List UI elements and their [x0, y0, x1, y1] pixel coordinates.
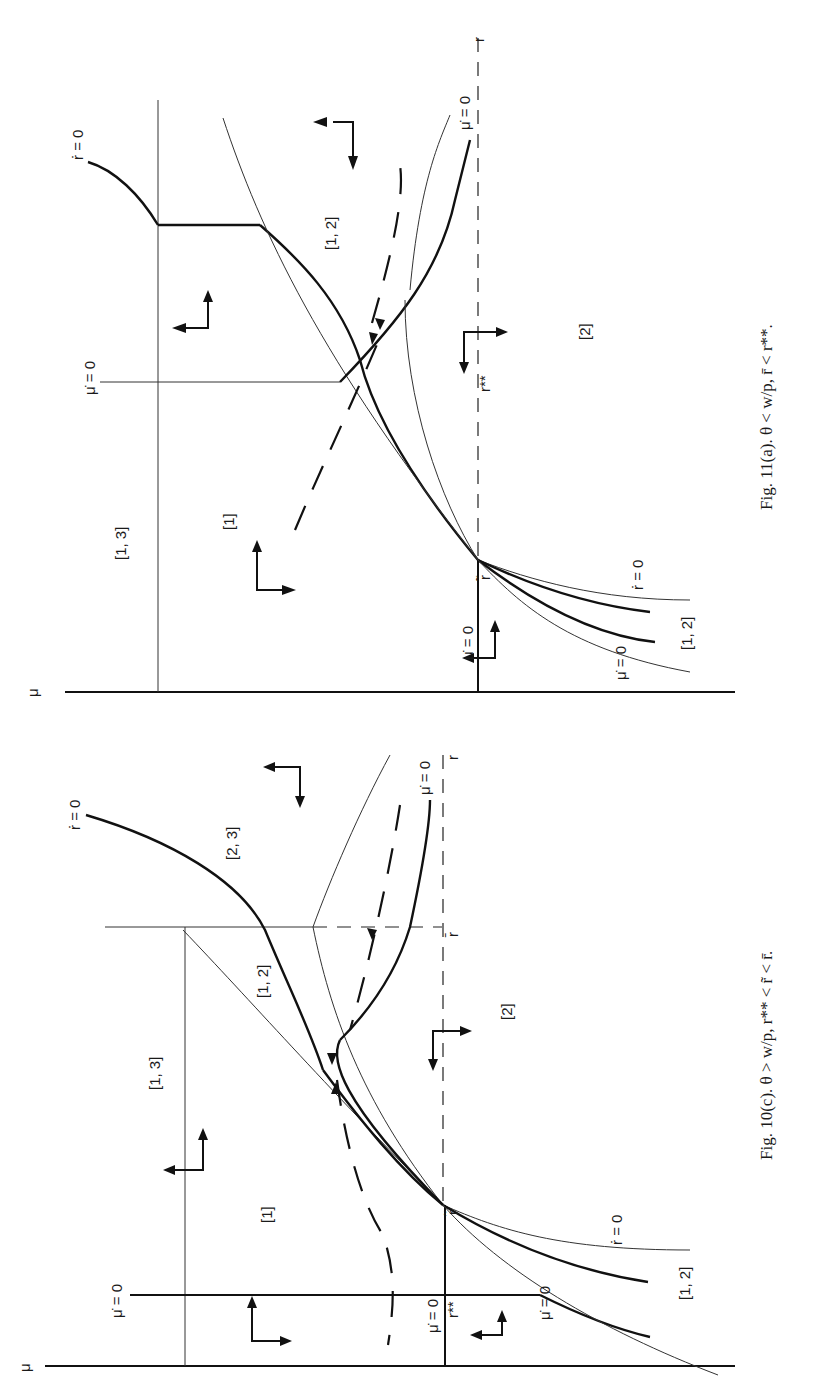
- region-2: [2]: [498, 1003, 515, 1020]
- marker-r-tilde: r̃: [444, 1210, 461, 1217]
- label-mudot-top: μ̇ = 0: [81, 361, 98, 395]
- label-mudot-right: μ̇ = 0: [456, 96, 473, 130]
- book-page: μ r: [0, 0, 816, 1395]
- direction-arrow-upper: [313, 117, 358, 170]
- saddle-arrow-up: [375, 318, 385, 330]
- direction-arrow-r-star: [459, 327, 508, 374]
- r-axis-label: r: [470, 37, 487, 42]
- figure-10c: μ r: [16, 755, 776, 1375]
- region-1: [1]: [220, 513, 237, 530]
- rdot-lower-thin: [478, 560, 690, 600]
- region-1-3: [1, 3]: [112, 527, 129, 560]
- mu-axis-label: μ: [24, 688, 41, 697]
- phase-diagrams: μ r: [0, 0, 816, 1395]
- label-rdot-top: ṙ = 0: [69, 130, 86, 160]
- direction-arrow-1: [252, 540, 296, 595]
- thin-right-curve: [410, 115, 450, 290]
- label-mudot-left: μ̇ = 0: [108, 1284, 125, 1318]
- mudot-lower-thick: [540, 1295, 650, 1337]
- saddle-path-upper: [350, 805, 400, 1030]
- thin-boundary-curve: [223, 118, 478, 560]
- direction-arrow-r-star: [428, 1026, 472, 1071]
- marker-r-double-star: r**: [444, 1301, 461, 1318]
- label-mudot-axis: μ̇ = 0: [424, 1299, 441, 1333]
- thin-inner-curve: [405, 300, 478, 560]
- caption-fig-11a: Fig. 11(a). θ < w/p, r̄ < r**.: [757, 324, 776, 510]
- region-1: [1]: [258, 1206, 275, 1223]
- region-1-3: [1, 3]: [146, 1057, 163, 1090]
- direction-arrow-upper: [263, 762, 305, 808]
- mudot-right-curve: [340, 140, 470, 382]
- saddle-arrow-r-bar: [367, 928, 377, 940]
- region-1-2-upper: [1, 2]: [254, 965, 271, 998]
- rdot-top-curve: [88, 162, 158, 225]
- thin-inner-curve: [313, 927, 443, 1205]
- mudot-lower-thin: [478, 560, 690, 672]
- direction-arrow-1: [247, 1296, 292, 1346]
- label-rdot-lower: ṙ = 0: [629, 560, 646, 590]
- saddle-path-upper: [372, 165, 401, 323]
- direction-arrow-1-3: [172, 290, 213, 333]
- mudot-loop-curve: [337, 1040, 443, 1205]
- label-rdot-lower: ṙ = 0: [608, 1215, 625, 1245]
- label-mudot-axis: μ̇ = 0: [459, 626, 476, 660]
- label-mudot-lower: μ̇ = 0: [612, 646, 629, 680]
- rdot-top-curve: [86, 815, 323, 1070]
- rdot-lower-thin: [443, 1205, 690, 1250]
- region-1-2-upper: [1, 2]: [322, 217, 339, 250]
- region-2: [2]: [576, 323, 593, 340]
- region-1-2-lower: [1, 2]: [676, 1267, 693, 1300]
- mu-axis-label: μ: [16, 1363, 33, 1372]
- saddle-arrow-down: [327, 1053, 337, 1065]
- mudot-right-curve: [340, 800, 430, 1040]
- region-2-3: [2, 3]: [223, 827, 240, 860]
- label-mudot-right: μ̇ = 0: [416, 761, 433, 795]
- figure-11a: μ r: [24, 37, 776, 697]
- caption-fig-10c: Fig. 10(c). θ > w/p, r** < r̃ < r̄.: [757, 951, 776, 1160]
- rdot-main-curve: [260, 225, 478, 560]
- region-1-2-lower: [1, 2]: [678, 617, 695, 650]
- label-rdot-top: ṙ = 0: [66, 800, 83, 830]
- direction-arrow-lower: [470, 1310, 507, 1340]
- label-mudot-lower: μ̇ = 0: [536, 1286, 553, 1320]
- saddle-path-lower: [295, 342, 378, 530]
- thin-upper-curve: [313, 755, 390, 927]
- marker-r-double-star: r**: [476, 375, 493, 392]
- marker-r-bar: r̄: [444, 932, 461, 938]
- marker-r-tilde: r̃: [476, 575, 493, 582]
- r-axis-label: r: [444, 755, 461, 760]
